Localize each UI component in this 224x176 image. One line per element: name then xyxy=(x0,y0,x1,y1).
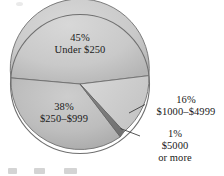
pie-label-250-999-text: $250–$999 xyxy=(2,113,126,125)
pie-label-1000-4999: 16% $1000–$4999 xyxy=(148,94,224,118)
pie-label-under-250: 45% Under $250 xyxy=(0,32,160,56)
pie-label-250-999: 38% $250–$999 xyxy=(2,101,126,125)
scan-artifact-top xyxy=(16,2,23,6)
pie-label-under-250-text: Under $250 xyxy=(0,44,160,56)
pie-label-5000-or-more-text-line1: $5000 xyxy=(140,140,210,152)
pie-label-250-999-percent: 38% xyxy=(2,101,126,113)
scan-artifact-bottom xyxy=(6,168,92,176)
pie-chart-figure: 45% Under $250 38% $250–$999 16% $1000–$… xyxy=(0,0,224,176)
pie-label-5000-or-more: 1% $5000 or more xyxy=(140,128,210,163)
pie-label-1000-4999-percent: 16% xyxy=(148,94,224,106)
pie-label-5000-or-more-text-line2: or more xyxy=(140,152,210,164)
pie-label-under-250-percent: 45% xyxy=(0,32,160,44)
pie-label-1000-4999-text: $1000–$4999 xyxy=(148,106,224,118)
pie-label-5000-or-more-percent: 1% xyxy=(140,128,210,140)
